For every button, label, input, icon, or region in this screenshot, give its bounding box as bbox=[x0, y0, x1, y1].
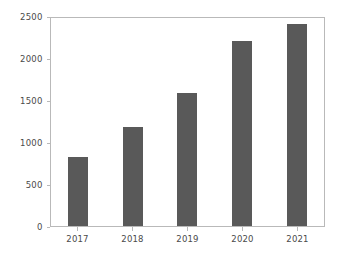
bar-slot bbox=[106, 18, 161, 226]
x-axis-tick: 2019 bbox=[160, 227, 215, 249]
x-axis-tick: 2018 bbox=[105, 227, 160, 249]
bar-2017[interactable] bbox=[68, 157, 88, 226]
x-axis-tick-label: 2020 bbox=[231, 234, 253, 244]
y-axis-tick-label: 1500 bbox=[20, 96, 46, 106]
y-axis-tick-layer: 05001000150020002500 bbox=[0, 17, 50, 227]
x-axis-tick-mark bbox=[187, 227, 188, 231]
x-axis-tick-mark bbox=[297, 227, 298, 231]
y-axis-tick-label: 500 bbox=[26, 180, 47, 190]
bar-slot bbox=[51, 18, 106, 226]
bar-slot bbox=[215, 18, 270, 226]
bar-2020[interactable] bbox=[232, 41, 252, 226]
x-axis-tick-mark bbox=[132, 227, 133, 231]
y-axis-tick-label: 2500 bbox=[20, 12, 46, 22]
x-axis-tick: 2020 bbox=[215, 227, 270, 249]
plot-area bbox=[50, 17, 325, 227]
x-axis-tick-label: 2021 bbox=[286, 234, 308, 244]
x-axis-tick-mark bbox=[77, 227, 78, 231]
y-axis-tick-label: 2000 bbox=[20, 54, 46, 64]
bar-2018[interactable] bbox=[123, 127, 143, 226]
bar-2019[interactable] bbox=[177, 93, 197, 226]
bar-slot bbox=[269, 18, 324, 226]
x-axis-tick: 2017 bbox=[50, 227, 105, 249]
x-axis-tick-label: 2018 bbox=[121, 234, 143, 244]
x-axis-tick-label: 2019 bbox=[176, 234, 198, 244]
bar-series bbox=[51, 18, 324, 226]
y-axis-tick-label: 1000 bbox=[20, 138, 46, 148]
x-axis-tick-layer: 20172018201920202021 bbox=[50, 227, 325, 249]
bar-slot bbox=[160, 18, 215, 226]
x-axis-tick: 2021 bbox=[270, 227, 325, 249]
x-axis-tick-label: 2017 bbox=[66, 234, 88, 244]
y-axis-tick-label: 0 bbox=[37, 222, 47, 232]
bar-2021[interactable] bbox=[287, 24, 307, 226]
x-axis-tick-mark bbox=[242, 227, 243, 231]
bar-chart-figure: 05001000150020002500 2017201820192020202… bbox=[0, 0, 341, 256]
